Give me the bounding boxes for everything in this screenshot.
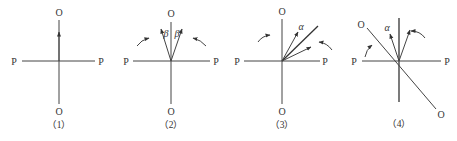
label-o-top: O [357, 19, 364, 30]
panel-2: β β O O P P （2） [123, 8, 219, 130]
panel-caption: （3） [270, 119, 295, 130]
label-o-top: O [55, 7, 62, 18]
rotation-arrow-left-icon [258, 35, 270, 42]
oo-diagonal-axis-line [367, 28, 436, 109]
label-o-top: O [278, 6, 285, 17]
label-p-right: P [213, 56, 219, 67]
label-p-left: P [351, 56, 357, 67]
label-p-right: P [98, 56, 104, 67]
label-o-bottom: O [278, 106, 285, 117]
label-o-bottom: O [437, 109, 444, 120]
panel-caption: （1） [47, 119, 72, 130]
label-p-left: P [11, 56, 17, 67]
label-o-bottom: O [167, 106, 174, 117]
label-p-left: P [123, 56, 129, 67]
rotation-arrow-left-icon [137, 38, 149, 46]
angle-label-alpha: α [298, 21, 304, 32]
vector-arrow-right-icon [399, 30, 410, 61]
label-p-right: P [444, 56, 450, 67]
label-o-top: O [167, 8, 174, 19]
label-o-bottom: O [55, 106, 62, 117]
rotation-arrow-right-icon [319, 42, 332, 50]
rotation-arrow-left-icon [365, 45, 372, 57]
angle-label-alpha: α [384, 22, 390, 33]
panel-caption: （4） [387, 118, 412, 129]
panel-3: α O O P P （3） [234, 6, 332, 130]
label-p-left: P [234, 56, 240, 67]
panel-caption: （2） [159, 119, 184, 130]
angle-label-beta-left: β [163, 28, 169, 39]
polarization-diagram-figure: O O P P （1） β β O O P P （2） α O O P P （3… [0, 0, 457, 141]
panel-1: O O P P （1） [11, 7, 104, 130]
rotation-arrow-right-icon [411, 31, 425, 38]
rotation-arrow-right-icon [193, 38, 206, 46]
panel-4: α O O P P （4） [351, 18, 450, 129]
label-p-right: P [322, 56, 328, 67]
angle-label-beta-right: β [174, 28, 180, 39]
